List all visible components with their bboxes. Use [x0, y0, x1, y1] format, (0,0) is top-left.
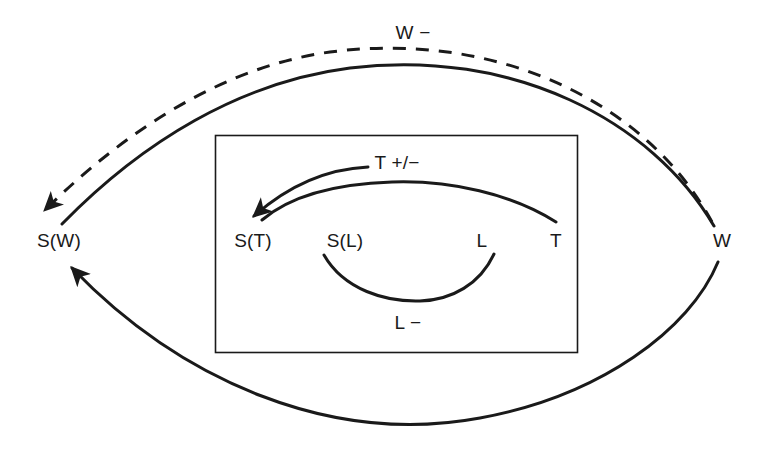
diagram-canvas: S(W) W S(T) S(L) L T W − T +/− L − [0, 0, 769, 454]
node-label-t: T [550, 231, 562, 250]
node-label-sw: S(W) [37, 231, 81, 250]
edge-sw-to-w-solid [62, 65, 714, 226]
node-label-sl: S(L) [327, 231, 364, 250]
edge-label-w-minus: W − [396, 23, 431, 42]
edge-t-to-st-plain [262, 182, 556, 222]
node-label-st: S(T) [234, 231, 272, 250]
edge-w-to-sw-bottom [72, 262, 718, 424]
edge-label-t-plus-minus: T +/− [374, 153, 419, 172]
node-label-l: L [477, 231, 488, 250]
edge-t-to-st-labelled [254, 167, 368, 216]
edge-label-l-minus: L − [395, 313, 422, 332]
diagram-vector-layer [0, 0, 769, 454]
edge-sl-to-l-bottom [324, 254, 494, 301]
node-label-w: W [713, 231, 731, 250]
